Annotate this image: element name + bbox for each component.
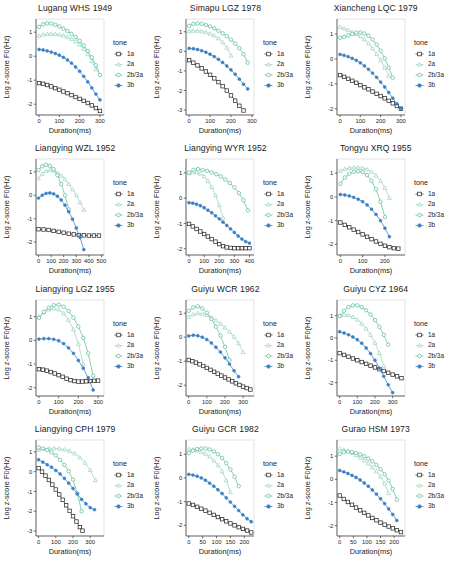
marker-open-circle (117, 354, 121, 358)
marker-filled-circle (195, 203, 198, 206)
marker-open-circle (47, 305, 50, 308)
legend-label: 3b (428, 362, 436, 369)
marker-open-square (205, 366, 208, 369)
legend-item-1a: 1a (265, 471, 285, 478)
x-tick-label: 200 (370, 399, 381, 405)
marker-open-circle (91, 374, 94, 377)
marker-open-square (417, 333, 421, 337)
marker-filled-circle (241, 238, 244, 241)
marker-open-circle (44, 163, 47, 166)
marker-open-square (41, 367, 44, 370)
marker-open-square (71, 514, 74, 517)
y-tick-label: 1 (29, 29, 32, 35)
legend-label: 1a (127, 190, 135, 197)
marker-open-square (85, 379, 88, 382)
panel-border (36, 159, 104, 255)
plot-area: 10-1-2-30100200300Duration(ms)Log z-scor… (150, 14, 300, 140)
marker-filled-circle (234, 73, 237, 76)
marker-open-square (57, 492, 60, 495)
marker-open-square (61, 498, 64, 501)
marker-open-square (387, 246, 390, 249)
marker-open-circle (224, 178, 227, 181)
marker-open-circle (52, 303, 55, 306)
marker-filled-circle (41, 194, 44, 197)
marker-filled-circle (358, 61, 361, 64)
marker-open-circle (62, 27, 65, 30)
x-tick-label: 300 (396, 118, 407, 124)
marker-filled-circle (221, 61, 224, 64)
legend-item-1a: 1a (415, 50, 435, 57)
marker-filled-circle (93, 508, 96, 511)
marker-open-square (364, 362, 367, 365)
legend-title: tone (113, 38, 127, 47)
marker-open-circle (50, 450, 53, 453)
marker-open-square (337, 351, 340, 354)
marker-open-circle (86, 351, 89, 354)
marker-open-circle (391, 487, 394, 490)
marker-open-square (395, 374, 398, 377)
marker-filled-circle (379, 497, 382, 500)
marker-open-square (356, 231, 359, 234)
marker-filled-circle (369, 352, 372, 355)
marker-open-square (202, 364, 205, 367)
marker-filled-circle (218, 218, 221, 221)
legend-item-3b: 3b (415, 222, 435, 229)
marker-open-square (343, 223, 346, 226)
y-axis-label: Log z-score F0(Hz) (153, 176, 162, 239)
marker-open-circle (350, 450, 353, 453)
x-tick-label: 300 (85, 539, 96, 545)
legend-item-1a: 1a (114, 50, 134, 57)
marker-open-square (346, 500, 349, 503)
marker-filled-circle (417, 224, 421, 228)
marker-open-square (351, 356, 354, 359)
legend-label: 3b (277, 222, 285, 229)
marker-open-square (362, 511, 365, 514)
marker-open-circle (41, 23, 44, 26)
legend-title: tone (263, 459, 277, 468)
marker-open-square (368, 363, 371, 366)
marker-filled-circle (200, 476, 203, 479)
panel-border (36, 440, 104, 536)
x-tick-label: 200 (59, 259, 70, 265)
y-axis-label: Log z-score F0(Hz) (303, 35, 312, 98)
y-tick-label: -2 (177, 522, 182, 528)
marker-filled-circle (54, 469, 57, 472)
legend-label: 3b (428, 502, 436, 509)
marker-open-square (342, 353, 345, 356)
marker-open-square (248, 247, 251, 250)
marker-open-circle (58, 458, 61, 461)
marker-open-circle (37, 316, 40, 319)
marker-open-square (200, 67, 203, 70)
marker-filled-circle (219, 350, 222, 353)
marker-open-circle (365, 174, 368, 177)
y-tick-label: 1 (29, 449, 32, 455)
marker-open-square (74, 95, 77, 98)
marker-open-circle (215, 173, 218, 176)
marker-filled-circle (228, 362, 231, 365)
marker-filled-circle (77, 358, 80, 361)
marker-open-square (94, 106, 97, 109)
marker-open-circle (187, 309, 190, 312)
marker-open-square (224, 375, 227, 378)
marker-open-square (37, 228, 40, 231)
marker-open-square (354, 81, 357, 84)
marker-open-square (338, 73, 341, 76)
legend-item-2a: 2a (415, 201, 435, 208)
marker-open-square (41, 82, 44, 85)
marker-open-circle (37, 25, 40, 28)
marker-open-square (204, 70, 207, 73)
marker-filled-circle (54, 52, 57, 55)
marker-filled-circle (229, 228, 232, 231)
legend-label: 2a (428, 341, 436, 348)
marker-filled-circle (211, 212, 214, 215)
marker-open-circle (208, 447, 211, 450)
marker-open-circle (366, 457, 369, 460)
marker-open-circle (63, 463, 66, 466)
marker-filled-circle (213, 485, 216, 488)
y-tick-label: 0 (179, 196, 183, 202)
marker-filled-circle (70, 62, 73, 65)
marker-filled-circle (350, 57, 353, 60)
marker-open-square (200, 507, 203, 510)
marker-filled-circle (72, 351, 75, 354)
y-tick-label: -1 (27, 216, 32, 222)
